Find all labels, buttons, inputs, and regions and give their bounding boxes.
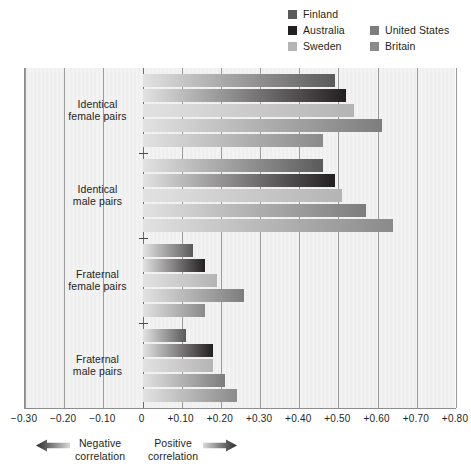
category-label-2: Fraternalfemale pairs bbox=[55, 268, 140, 293]
bar-finland-group-2 bbox=[143, 244, 194, 257]
positive-correlation-annotation: Positive correlation bbox=[148, 437, 237, 462]
bar-finland-group-0 bbox=[143, 74, 335, 87]
category-label-1-line-0: Identical bbox=[55, 183, 140, 196]
bar-united-states-group-2 bbox=[143, 289, 245, 302]
legend-item-sweden: Sweden bbox=[288, 38, 345, 54]
legend-label-australia: Australia bbox=[303, 25, 345, 36]
legend-item-finland: Finland bbox=[288, 6, 345, 22]
x-tick-label-1: −0.20 bbox=[50, 412, 76, 426]
bar-sweden-group-1 bbox=[143, 189, 343, 202]
bar-australia-group-2 bbox=[143, 259, 206, 272]
x-tick-label-4: +0.10 bbox=[168, 412, 194, 426]
bar-united-states-group-3 bbox=[143, 374, 225, 387]
category-label-2-line-1: female pairs bbox=[55, 280, 140, 293]
bar-britain-group-0 bbox=[143, 134, 323, 147]
legend-column-2: United States Britain bbox=[370, 22, 449, 54]
x-axis-line bbox=[24, 408, 456, 409]
bar-sweden-group-2 bbox=[143, 274, 217, 287]
x-tick-label-0: −0.30 bbox=[11, 412, 37, 426]
positive-correlation-line2: correlation bbox=[148, 450, 198, 463]
chart-root: Finland Australia Sweden United States B… bbox=[0, 0, 471, 473]
category-label-1-line-1: male pairs bbox=[55, 195, 140, 208]
legend-item-australia: Australia bbox=[288, 22, 345, 38]
legend-column-1: Finland Australia Sweden bbox=[288, 6, 345, 54]
category-label-3: Fraternalmale pairs bbox=[55, 353, 140, 378]
x-tick-label-10: +0.70 bbox=[403, 412, 429, 426]
legend-swatch-australia bbox=[288, 26, 297, 35]
arrow-left-icon bbox=[36, 439, 70, 452]
category-label-1: Identicalmale pairs bbox=[55, 183, 140, 208]
gridline bbox=[456, 68, 457, 408]
positive-correlation-line1: Positive bbox=[148, 437, 198, 450]
chart-legend: Finland Australia Sweden United States B… bbox=[288, 6, 471, 54]
category-label-0-line-0: Identical bbox=[55, 98, 140, 111]
plot-area: Identicalfemale pairsIdenticalmale pairs… bbox=[24, 68, 455, 408]
chart-footer: Negative correlation Positive correlatio… bbox=[0, 437, 471, 473]
negative-correlation-line1: Negative bbox=[75, 437, 125, 450]
category-label-2-line-0: Fraternal bbox=[55, 268, 140, 281]
legend-label-britain: Britain bbox=[385, 41, 415, 52]
x-tick-label-2: −0.10 bbox=[89, 412, 115, 426]
bar-finland-group-1 bbox=[143, 159, 323, 172]
x-tick-label-11: +0.80 bbox=[442, 412, 468, 426]
legend-item-britain: Britain bbox=[370, 38, 449, 54]
bar-australia-group-3 bbox=[143, 344, 214, 357]
bar-sweden-group-0 bbox=[143, 104, 355, 117]
legend-item-united-states: United States bbox=[370, 22, 449, 38]
legend-label-sweden: Sweden bbox=[303, 41, 342, 52]
negative-correlation-annotation: Negative correlation bbox=[36, 437, 125, 462]
legend-swatch-britain bbox=[370, 42, 379, 51]
x-tick-label-3: 0 bbox=[139, 412, 145, 426]
legend-swatch-united-states bbox=[370, 26, 379, 35]
legend-swatch-sweden bbox=[288, 42, 297, 51]
x-tick-label-6: +0.30 bbox=[246, 412, 272, 426]
bar-australia-group-1 bbox=[143, 174, 335, 187]
legend-label-finland: Finland bbox=[303, 9, 338, 20]
bar-finland-group-3 bbox=[143, 329, 186, 342]
category-label-3-line-1: male pairs bbox=[55, 365, 140, 378]
bar-united-states-group-0 bbox=[143, 119, 382, 132]
x-tick-label-9: +0.60 bbox=[363, 412, 389, 426]
category-label-3-line-0: Fraternal bbox=[55, 353, 140, 366]
bar-australia-group-0 bbox=[143, 89, 347, 102]
bar-united-states-group-1 bbox=[143, 204, 366, 217]
negative-correlation-line2: correlation bbox=[75, 450, 125, 463]
x-tick-label-7: +0.40 bbox=[285, 412, 311, 426]
legend-swatch-finland bbox=[288, 10, 297, 19]
x-tick-label-5: +0.20 bbox=[207, 412, 233, 426]
negative-correlation-text: Negative correlation bbox=[75, 437, 125, 462]
positive-correlation-text: Positive correlation bbox=[148, 437, 198, 462]
x-tick-label-8: +0.50 bbox=[324, 412, 350, 426]
bar-britain-group-2 bbox=[143, 304, 206, 317]
bar-sweden-group-3 bbox=[143, 359, 214, 372]
bar-britain-group-3 bbox=[143, 389, 237, 402]
legend-label-united-states: United States bbox=[385, 25, 449, 36]
category-label-0-line-1: female pairs bbox=[55, 110, 140, 123]
arrow-right-icon bbox=[203, 439, 237, 452]
bar-britain-group-1 bbox=[143, 219, 394, 232]
x-axis-tick-labels: −0.30−0.20−0.100+0.10+0.20+0.30+0.40+0.5… bbox=[0, 412, 471, 428]
category-label-0: Identicalfemale pairs bbox=[55, 98, 140, 123]
